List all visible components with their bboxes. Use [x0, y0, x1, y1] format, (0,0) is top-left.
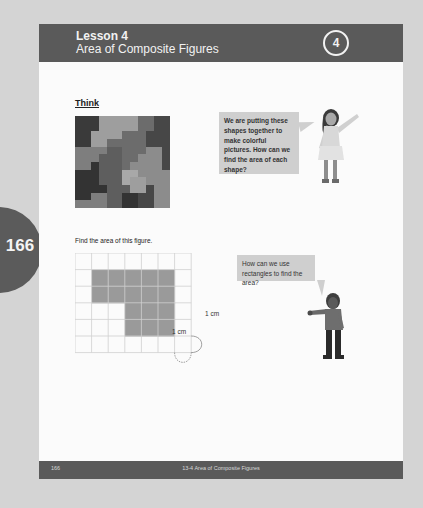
mosaic-cell	[107, 177, 115, 185]
mosaic-cell	[91, 170, 99, 178]
mosaic-cell	[130, 154, 138, 162]
mosaic-cell	[154, 200, 162, 208]
mosaic-cell	[107, 124, 115, 132]
think-heading: Think	[75, 98, 99, 108]
girl-speech-bubble: We are putting these shapes together to …	[219, 112, 299, 174]
lesson-header: Lesson 4 Area of Composite Figures 4	[39, 24, 403, 62]
mosaic-cell	[99, 162, 107, 170]
mosaic-cell	[115, 131, 123, 139]
mosaic-cell	[83, 154, 91, 162]
mosaic-cell	[91, 193, 99, 201]
lesson-title: Area of Composite Figures	[76, 42, 219, 56]
unit-label-horizontal: 1 cm	[205, 310, 219, 317]
mosaic-cell	[91, 124, 99, 132]
mosaic-cell	[115, 154, 123, 162]
lesson-number-badge: 4	[323, 30, 349, 56]
textbook-page: Lesson 4 Area of Composite Figures 4 Thi…	[39, 24, 403, 479]
mosaic-cell	[138, 193, 146, 201]
mosaic-cell	[138, 139, 146, 147]
mosaic-cell	[91, 139, 99, 147]
mosaic-cell	[162, 154, 170, 162]
mosaic-cell	[138, 185, 146, 193]
mosaic-cell	[107, 200, 115, 208]
mosaic-cell	[83, 200, 91, 208]
mosaic-cell	[91, 154, 99, 162]
mosaic-cell	[146, 147, 154, 155]
mosaic-cell	[107, 154, 115, 162]
mosaic-cell	[122, 193, 130, 201]
mosaic-cell	[75, 139, 83, 147]
mosaic-cell	[75, 162, 83, 170]
mosaic-cell	[146, 154, 154, 162]
mosaic-cell	[154, 162, 162, 170]
girl-character-icon	[309, 106, 365, 188]
mosaic-cell	[107, 185, 115, 193]
mosaic-cell	[138, 124, 146, 132]
mosaic-cell	[115, 170, 123, 178]
mosaic-cell	[115, 162, 123, 170]
mosaic-cell	[162, 200, 170, 208]
mosaic-cell	[162, 162, 170, 170]
mosaic-cell	[91, 200, 99, 208]
mosaic-cell	[146, 170, 154, 178]
mosaic-cell	[83, 162, 91, 170]
mosaic-cell	[122, 147, 130, 155]
mosaic-cell	[154, 147, 162, 155]
mosaic-cell	[122, 185, 130, 193]
mosaic-cell	[122, 200, 130, 208]
mosaic-cell	[83, 116, 91, 124]
mosaic-cell	[83, 124, 91, 132]
mosaic-cell	[138, 154, 146, 162]
mosaic-cell	[130, 147, 138, 155]
mosaic-cell	[83, 147, 91, 155]
mosaic-cell	[138, 131, 146, 139]
mosaic-cell	[154, 193, 162, 201]
mosaic-cell	[99, 139, 107, 147]
mosaic-cell	[162, 124, 170, 132]
mosaic-cell	[75, 124, 83, 132]
mosaic-cell	[138, 162, 146, 170]
mosaic-cell	[115, 116, 123, 124]
mosaic-cell	[130, 116, 138, 124]
mosaic-cell	[122, 162, 130, 170]
mosaic-cell	[146, 116, 154, 124]
mosaic-cell	[99, 193, 107, 201]
mosaic-cell	[107, 193, 115, 201]
mosaic-cell	[146, 185, 154, 193]
mosaic-cell	[99, 200, 107, 208]
mosaic-cell	[107, 147, 115, 155]
exercise-prompt: Find the area of this figure.	[75, 237, 152, 244]
mosaic-cell	[107, 139, 115, 147]
mosaic-cell	[99, 147, 107, 155]
mosaic-cell	[115, 124, 123, 132]
mosaic-cell	[146, 200, 154, 208]
mosaic-cell	[115, 185, 123, 193]
colorful-shapes-mosaic	[75, 116, 170, 208]
mosaic-cell	[146, 193, 154, 201]
mosaic-cell	[122, 177, 130, 185]
mosaic-cell	[115, 193, 123, 201]
mosaic-cell	[138, 170, 146, 178]
mosaic-cell	[130, 162, 138, 170]
mosaic-cell	[99, 185, 107, 193]
mosaic-cell	[75, 177, 83, 185]
mosaic-cell	[130, 193, 138, 201]
mosaic-cell	[75, 185, 83, 193]
mosaic-cell	[115, 200, 123, 208]
mosaic-cell	[122, 154, 130, 162]
mosaic-cell	[130, 177, 138, 185]
mosaic-cell	[83, 177, 91, 185]
mosaic-cell	[107, 170, 115, 178]
mosaic-cell	[154, 170, 162, 178]
mosaic-cell	[122, 139, 130, 147]
mosaic-cell	[154, 131, 162, 139]
mosaic-cell	[154, 177, 162, 185]
mosaic-cell	[130, 185, 138, 193]
mosaic-cell	[107, 162, 115, 170]
mosaic-cell	[107, 131, 115, 139]
mosaic-cell	[154, 139, 162, 147]
mosaic-cell	[130, 139, 138, 147]
mosaic-cell	[146, 139, 154, 147]
mosaic-cell	[154, 185, 162, 193]
mosaic-cell	[91, 131, 99, 139]
